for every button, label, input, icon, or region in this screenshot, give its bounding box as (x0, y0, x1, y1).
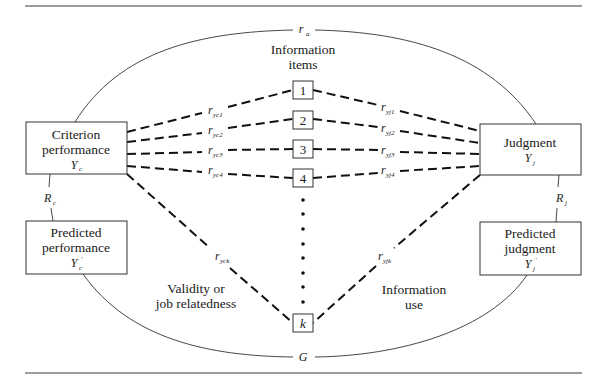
item-label-4: 4 (300, 171, 307, 186)
item-label-k: k (300, 316, 306, 331)
judgment-subscript: j (532, 159, 535, 167)
rc-connector-top (49, 174, 50, 187)
edge-yj1-a (313, 90, 378, 105)
pred-perf-line1: Predicted (51, 225, 102, 240)
edge-yj4-b (400, 166, 480, 171)
validity-label-line1: Validity or (167, 281, 225, 296)
ryc3-subscript: yc3 (212, 151, 223, 159)
ryck-subscript: yck (219, 257, 230, 265)
rj-connector-bottom (556, 208, 557, 222)
validity-label-line2: job relatedness (155, 296, 237, 311)
edge-yc1-b (228, 90, 293, 107)
ryc4-subscript: yc4 (212, 171, 223, 179)
ellipsis-dots (301, 198, 305, 304)
edge-yj2-a (313, 119, 378, 127)
ra-subscript: a (306, 30, 310, 38)
edge-yck-a (127, 174, 210, 248)
use-label-line2: use (405, 297, 423, 312)
edge-yj4-a (313, 173, 378, 178)
g-symbol: G (299, 350, 308, 364)
pred-judg-line2: judgment (504, 241, 556, 256)
ryc2-subscript: yc2 (212, 131, 223, 139)
rj-connector-top (558, 175, 559, 187)
criterion-line2: performance (42, 142, 110, 157)
item-label-2: 2 (300, 113, 307, 128)
pred-judg-subscript: j (532, 265, 535, 273)
pred-judg-line1: Predicted (505, 226, 556, 241)
arc-top-right (315, 30, 536, 124)
edge-yc3-b (228, 149, 293, 150)
use-label-line1: Information (382, 282, 447, 297)
edge-yj3-b (400, 152, 480, 154)
rj-symbol: R (555, 191, 564, 205)
info-items-title-line2: items (288, 57, 317, 72)
edge-yj2-b (400, 131, 480, 143)
ryjk-subscript: yjk (382, 257, 392, 265)
rj-subscript: j (564, 199, 567, 207)
edge-yc2-b (228, 119, 293, 128)
edge-yck-b (230, 268, 293, 323)
rc-symbol: R (43, 191, 52, 205)
item-label-3: 3 (300, 142, 307, 157)
item-label-1: 1 (300, 83, 307, 98)
lens-model-diagram: 1 2 3 4 k Information items r a G R c R … (0, 0, 607, 388)
edge-yjk-b (313, 266, 376, 323)
criterion-line1: Criterion (52, 127, 101, 142)
edge-yc1-a (127, 113, 202, 132)
judgment-line1: Judgment (504, 135, 557, 150)
edge-yjk-a (394, 175, 480, 248)
ryj1-subscript: yj1 (385, 108, 395, 116)
rc-subscript: c (53, 199, 57, 207)
edge-yc2-a (127, 133, 202, 142)
pred-perf-line2: performance (42, 240, 110, 255)
rc-connector-bottom (51, 208, 53, 221)
arc-top-left (75, 30, 293, 122)
info-items-title-line1: Information (271, 42, 336, 57)
edge-yc4-a (127, 166, 202, 172)
edge-yc4-b (228, 174, 293, 178)
ryj3-subscript: yj3 (385, 151, 395, 159)
ryj4-subscript: yj4 (385, 171, 395, 179)
edge-yc3-a (127, 152, 202, 154)
edge-yj1-b (400, 111, 480, 131)
edge-yj3-a (313, 149, 378, 150)
ra-symbol: r (299, 22, 304, 36)
ryj2-subscript: yj2 (385, 129, 395, 137)
ryc1-subscript: yc1 (212, 111, 223, 119)
